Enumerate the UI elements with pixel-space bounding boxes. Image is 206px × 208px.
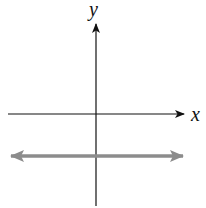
coordinate-plane: y x bbox=[0, 0, 206, 208]
y-axis-label: y bbox=[87, 0, 98, 21]
x-axis-label: x bbox=[190, 103, 200, 125]
